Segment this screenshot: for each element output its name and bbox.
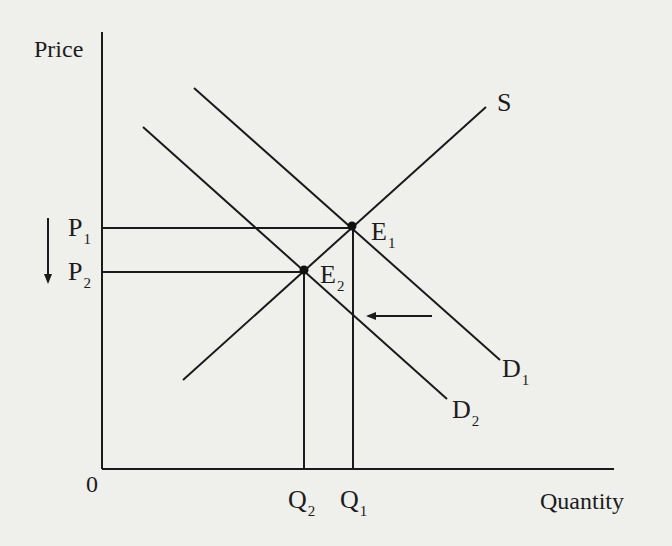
equilibrium-e1-label: E1 (371, 219, 395, 245)
demand-d1-label: D1 (502, 356, 529, 382)
price-p2-label: P2 (68, 259, 91, 285)
demand-curve-d2 (143, 127, 447, 399)
d1-subscript: 1 (522, 372, 530, 388)
d2-subscript: 2 (472, 413, 480, 429)
equilibrium-point-e1 (348, 222, 357, 231)
e1-subscript: 1 (388, 235, 396, 251)
demand-curve-d1 (194, 88, 500, 360)
q1-subscript: 1 (360, 503, 368, 519)
p2-subscript: 2 (83, 275, 91, 291)
supply-demand-diagram: Price Quantity 0 S D1 D2 E1 E2 P1 P2 Q2 … (0, 0, 672, 546)
supply-label: S (497, 90, 511, 116)
p1-subscript: 1 (83, 231, 91, 247)
origin-label: 0 (86, 472, 98, 496)
supply-curve (183, 107, 486, 380)
p2-letter: P (68, 257, 82, 286)
quantity-q2-label: Q2 (288, 487, 315, 513)
e2-letter: E (320, 260, 336, 289)
d1-letter: D (502, 354, 521, 383)
equilibrium-point-e2 (300, 266, 309, 275)
p1-letter: P (68, 213, 82, 242)
price-p1-label: P1 (68, 215, 91, 241)
e2-subscript: 2 (337, 278, 345, 294)
q1-letter: Q (340, 485, 359, 514)
d2-letter: D (452, 395, 471, 424)
quantity-q1-label: Q1 (340, 487, 367, 513)
y-axis-label: Price (34, 37, 83, 61)
q2-letter: Q (288, 485, 307, 514)
equilibrium-e2-label: E2 (320, 262, 344, 288)
e1-letter: E (371, 217, 387, 246)
demand-d2-label: D2 (452, 397, 479, 423)
x-axis-label: Quantity (540, 489, 624, 513)
q2-subscript: 2 (308, 503, 316, 519)
